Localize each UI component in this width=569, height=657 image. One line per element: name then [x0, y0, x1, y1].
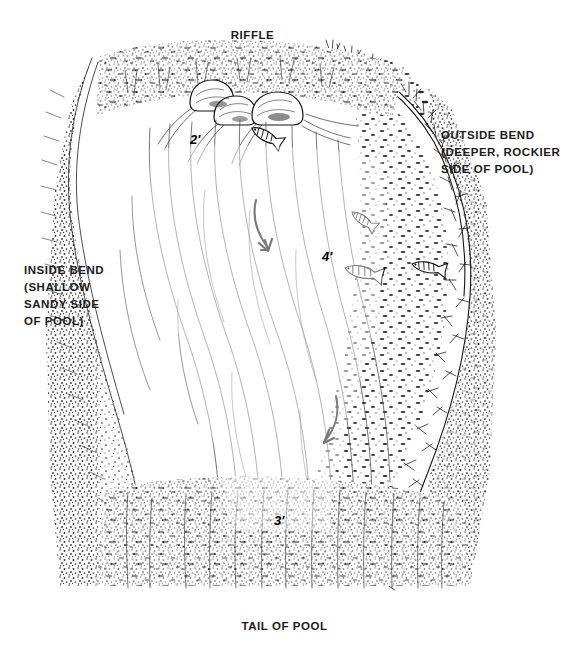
- label-tail-of-pool: TAIL OF POOL: [0, 618, 569, 635]
- label-inside-bend: INSIDE BEND (SHALLOW SANDY SIDE OF POOL): [24, 262, 104, 330]
- diagram-canvas: RIFFLE OUTSIDE BEND (DEEPER, ROCKIER SID…: [0, 0, 569, 657]
- label-riffle: RIFFLE: [0, 27, 505, 44]
- label-outside-bend: OUTSIDE BEND (DEEPER, ROCKIER SIDE OF PO…: [441, 127, 560, 178]
- depth-marker-outside-bend: 4': [322, 249, 332, 264]
- depth-marker-tail: 3': [274, 513, 284, 528]
- depth-marker-riffle: 2': [190, 132, 200, 147]
